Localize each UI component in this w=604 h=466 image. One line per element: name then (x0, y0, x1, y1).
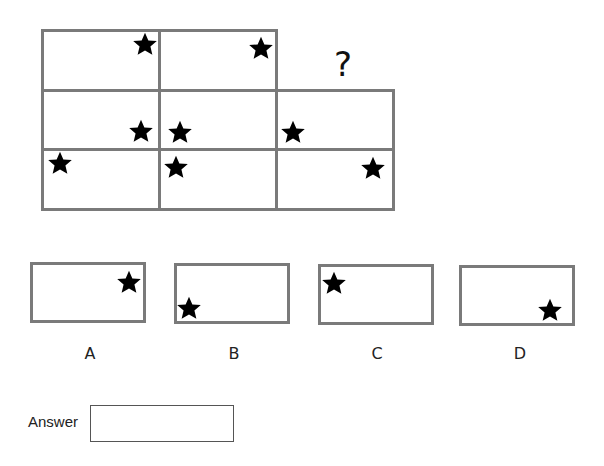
star-icon (47, 150, 73, 176)
star-icon (176, 295, 202, 321)
star-icon (537, 297, 563, 323)
answer-label: Answer (28, 413, 78, 430)
star-icon (132, 31, 158, 57)
star-icon (360, 155, 386, 181)
answer-input[interactable] (90, 405, 234, 442)
star-icon (163, 154, 189, 180)
star-icon (321, 270, 347, 296)
option-a-label: A (85, 344, 96, 363)
option-c-label: C (371, 344, 382, 363)
star-icon (248, 35, 274, 61)
star-icon (128, 118, 154, 144)
star-icon (280, 119, 306, 145)
missing-cell-question-mark: ? (334, 47, 352, 81)
option-b-label: B (229, 344, 240, 363)
option-d-label: D (514, 344, 526, 363)
star-icon (167, 119, 193, 145)
star-icon (116, 269, 142, 295)
